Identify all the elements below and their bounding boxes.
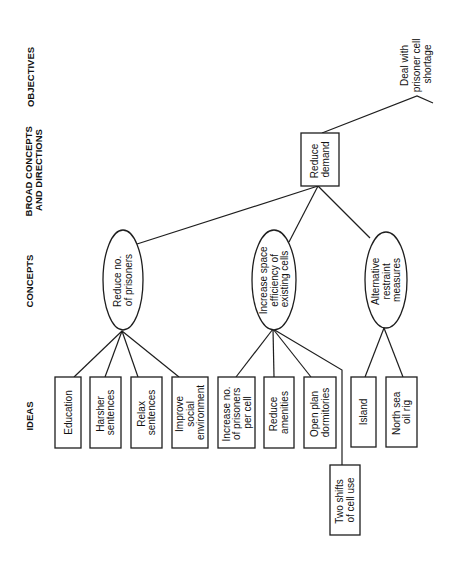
- svg-text:Island: Island: [358, 399, 369, 426]
- svg-text:Alternative restraint: Alternative restraint measures: [370, 255, 402, 305]
- edge-concept3-idea-oil-rig: [384, 328, 403, 377]
- concept-node-space-efficiency: Increase space efficiency of existing ce…: [252, 230, 296, 330]
- edge-concept2-idea-amenities: [273, 329, 274, 377]
- header-broad-concepts: BROAD CONCEPTS AND DIRECTIONS: [23, 124, 44, 217]
- svg-text:Reduce demand: Reduce demand: [309, 141, 331, 178]
- svg-text:Deal with prisoner cell: Deal with prisoner cell shortage: [399, 36, 433, 93]
- edge-concept2-idea-dormitories: [273, 329, 311, 377]
- header-concepts: CONCEPTS: [24, 255, 35, 308]
- objective-node: Deal with prisoner cell shortage: [399, 36, 433, 93]
- edge-concept2-idea-increase: [236, 329, 273, 377]
- idea-node-reduce-amenities: Reduce amenities: [264, 377, 294, 448]
- svg-text:Increase space efficie: Increase space efficiency of existing ce…: [258, 244, 290, 315]
- idea-node-relax-sentences: Relax sentences: [131, 377, 162, 448]
- idea-node-open-plan-dormitories: Open plan dormitories: [304, 377, 336, 448]
- svg-text:Reduce no. of prisoner: Reduce no. of prisoners: [112, 253, 134, 307]
- idea-node-island: Island: [351, 377, 376, 447]
- concept-node-alternative-restraint: Alternative restraint measures: [365, 232, 407, 328]
- svg-text:Two shifts of cell use: Two shifts of cell use: [334, 476, 356, 523]
- header-objectives: OBJECTIVES: [25, 47, 36, 107]
- edge-concept1-idea-harsher: [105, 331, 122, 377]
- idea-node-two-shifts-cell-use: Two shifts of cell use: [330, 465, 360, 535]
- edge-broad-to-concept-3: [318, 186, 370, 238]
- edge-concept3-idea-island: [365, 328, 384, 377]
- concept-fan-diagram: OBJECTIVES BROAD CONCEPTS AND DIRECTIONS…: [0, 0, 455, 561]
- header-ideas: IDEAS: [24, 401, 35, 430]
- svg-text:OBJECTIVES: OBJECTIVES: [25, 47, 36, 107]
- broad-concept-node: Reduce demand: [301, 133, 339, 186]
- idea-node-improve-social-environment: Improve social environment: [172, 377, 208, 448]
- concept-node-reduce-prisoners: Reduce no. of prisoners: [103, 230, 143, 330]
- edge-concept1-idea-education: [74, 331, 122, 377]
- idea-node-education: Education: [55, 377, 81, 448]
- edge-objective-to-broad: [322, 96, 433, 133]
- svg-text:Education: Education: [63, 390, 74, 434]
- svg-text:BROAD CONCEPTS AND DIREC: BROAD CONCEPTS AND DIRECTIONS: [23, 124, 44, 217]
- idea-node-increase-prisoners-per-cell: Increase no. of prisoners per cell: [218, 377, 255, 448]
- svg-text:Open plan dormitories: Open plan dormitories: [309, 388, 331, 437]
- svg-text:Harsher sentences: Harsher sentences: [95, 390, 117, 436]
- svg-text:CONCEPTS: CONCEPTS: [24, 255, 35, 308]
- idea-node-north-sea-oil-rig: North sea oil rig: [386, 377, 417, 447]
- svg-text:Reduce amenities: Reduce amenities: [268, 391, 290, 434]
- edge-broad-to-concept-1: [137, 186, 318, 244]
- svg-text:IDEAS: IDEAS: [24, 401, 35, 430]
- idea-node-harsher-sentences: Harsher sentences: [90, 377, 121, 448]
